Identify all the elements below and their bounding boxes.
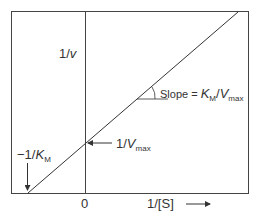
- lineweaver-burk-plot: [0, 0, 258, 220]
- regression-line: [28, 12, 238, 193]
- slope-label: Slope = KM/Vmax: [160, 87, 243, 100]
- x-axis-label: 1/[S]: [147, 197, 174, 210]
- x-intercept-label: −1/KM: [17, 148, 51, 161]
- slope-angle-arc: [152, 87, 155, 99]
- y-intercept-label: 1/Vmax: [116, 137, 151, 150]
- y-axis-label: 1/v: [59, 47, 76, 60]
- origin-label: 0: [81, 197, 88, 210]
